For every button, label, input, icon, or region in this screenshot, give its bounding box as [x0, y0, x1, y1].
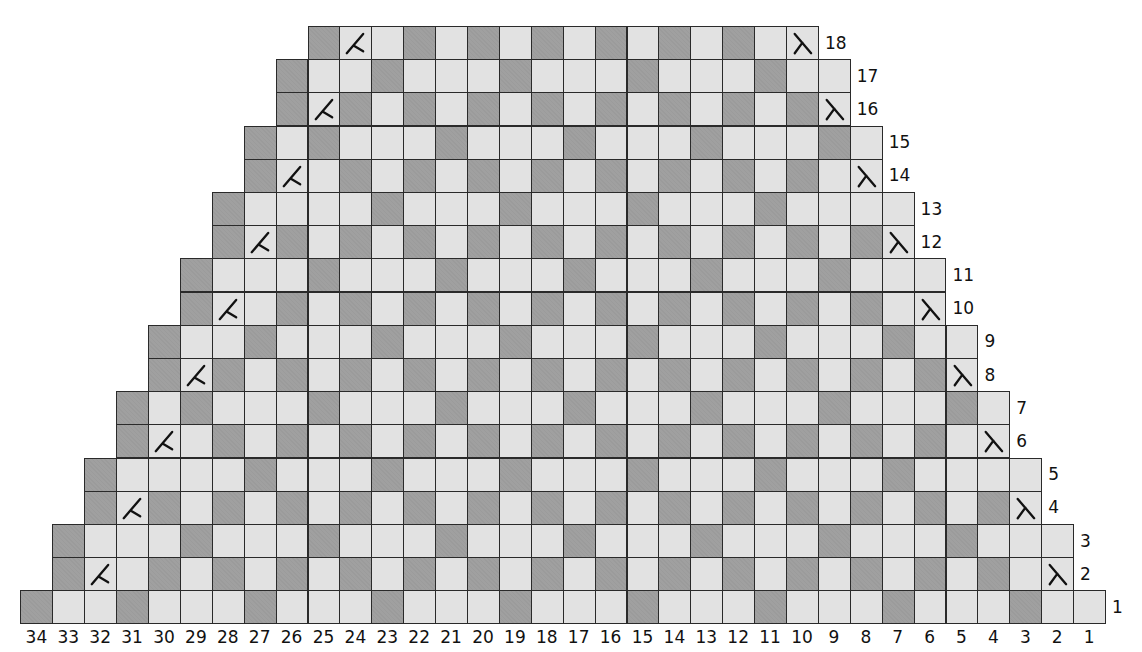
chart-cell	[754, 292, 787, 326]
chart-cell	[84, 524, 117, 558]
chart-cell	[244, 391, 277, 425]
chart-cell	[467, 424, 500, 458]
chart-cell	[754, 126, 787, 160]
chart-cell	[754, 524, 787, 558]
chart-cell	[722, 325, 755, 359]
chart-cell	[308, 557, 341, 591]
chart-cell	[435, 491, 468, 525]
chart-cell	[308, 325, 341, 359]
chart-cell	[786, 391, 819, 425]
chart-cell	[563, 590, 596, 624]
chart-cell	[212, 590, 245, 624]
chart-cell	[339, 358, 372, 392]
chart-cell	[914, 557, 947, 591]
chart-cell	[339, 491, 372, 525]
chart-cell	[84, 557, 117, 591]
chart-cell	[690, 358, 723, 392]
row-number-label: 14	[889, 165, 911, 185]
chart-cell	[276, 424, 309, 458]
chart-cell	[722, 590, 755, 624]
chart-cell	[499, 258, 532, 292]
chart-cell	[531, 424, 564, 458]
chart-cell	[722, 358, 755, 392]
chart-cell	[690, 590, 723, 624]
chart-cell	[308, 225, 341, 259]
chart-cell	[276, 126, 309, 160]
chart-cell	[371, 358, 404, 392]
chart-cell	[276, 159, 309, 193]
chart-cell	[499, 325, 532, 359]
chart-cell	[531, 590, 564, 624]
chart-cell	[850, 225, 883, 259]
chart-cell	[563, 391, 596, 425]
chart-cell	[946, 590, 979, 624]
chart-cell	[499, 424, 532, 458]
row-number-label: 18	[825, 33, 847, 53]
chart-cell	[595, 590, 628, 624]
chart-cell	[276, 325, 309, 359]
chart-cell	[499, 524, 532, 558]
chart-cell	[1073, 590, 1106, 624]
right-slant-decrease-icon	[1042, 558, 1073, 590]
chart-cell	[595, 258, 628, 292]
chart-cell	[212, 325, 245, 359]
chart-cell	[180, 258, 213, 292]
chart-cell	[754, 258, 787, 292]
chart-cell	[850, 391, 883, 425]
chart-cell	[882, 225, 915, 259]
chart-cell	[531, 59, 564, 93]
chart-cell	[946, 391, 979, 425]
chart-cell	[403, 292, 436, 326]
chart-cell	[722, 26, 755, 60]
chart-cell	[627, 59, 660, 93]
column-number-label: 32	[84, 627, 116, 647]
chart-cell	[244, 225, 277, 259]
column-number-label: 4	[977, 627, 1009, 647]
chart-cell	[690, 92, 723, 126]
chart-cell	[1009, 590, 1042, 624]
chart-cell	[371, 424, 404, 458]
chart-cell	[148, 358, 181, 392]
chart-cell	[595, 557, 628, 591]
chart-cell	[977, 524, 1010, 558]
chart-cell	[403, 524, 436, 558]
chart-cell	[339, 126, 372, 160]
chart-cell	[977, 491, 1010, 525]
chart-cell	[180, 590, 213, 624]
chart-cell	[786, 292, 819, 326]
chart-cell	[850, 126, 883, 160]
chart-cell	[371, 258, 404, 292]
chart-cell	[658, 458, 691, 492]
chart-cell	[308, 590, 341, 624]
chart-cell	[308, 358, 341, 392]
column-number-label: 20	[467, 627, 499, 647]
chart-cell	[786, 524, 819, 558]
chart-cell	[722, 524, 755, 558]
chart-cell	[754, 92, 787, 126]
chart-cell	[563, 26, 596, 60]
row-number-label: 3	[1080, 531, 1091, 551]
chart-cell	[84, 491, 117, 525]
left-slant-decrease-icon	[181, 359, 212, 391]
chart-cell	[276, 458, 309, 492]
chart-cell	[212, 458, 245, 492]
chart-cell	[754, 192, 787, 226]
chart-cell	[435, 92, 468, 126]
chart-cell	[595, 491, 628, 525]
right-slant-decrease-icon	[978, 425, 1009, 457]
chart-cell	[595, 225, 628, 259]
chart-cell	[180, 391, 213, 425]
right-slant-decrease-icon	[1010, 492, 1041, 524]
chart-cell	[212, 391, 245, 425]
chart-cell	[531, 92, 564, 126]
chart-cell	[850, 292, 883, 326]
chart-cell	[658, 524, 691, 558]
chart-cell	[882, 524, 915, 558]
chart-cell	[467, 458, 500, 492]
chart-cell	[116, 557, 149, 591]
chart-cell	[882, 491, 915, 525]
chart-cell	[276, 192, 309, 226]
chart-cell	[627, 92, 660, 126]
chart-cell	[786, 92, 819, 126]
chart-cell	[914, 458, 947, 492]
